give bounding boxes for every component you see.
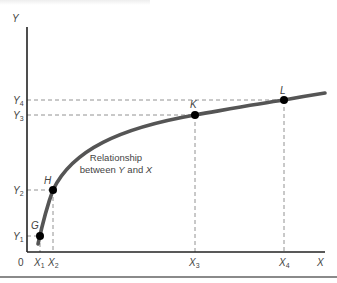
annotation-line-1: Relationship (90, 152, 142, 163)
bottom-divider (0, 276, 337, 278)
y-tick-1: Y1 (13, 231, 24, 243)
point-l (280, 96, 288, 104)
x-tick-1: X1 (33, 257, 45, 269)
annotation-line-2: between Y and X (80, 164, 153, 175)
x-tick-4: X4 (278, 257, 290, 269)
point-label-l: L (280, 85, 286, 96)
y-tick-3: Y3 (13, 110, 24, 122)
x-axis-title: X (316, 257, 324, 268)
x-tick-2: X2 (47, 257, 59, 269)
point-label-g: G (31, 220, 39, 231)
relationship-annotation: Relationship between Y and X (80, 152, 153, 175)
point-label-k: K (190, 99, 198, 110)
origin-label: 0 (18, 257, 24, 268)
point-h (49, 186, 57, 194)
point-k (191, 111, 199, 119)
x-tick-3: X3 (188, 257, 200, 269)
y-tick-4: Y4 (13, 95, 24, 107)
point-g (36, 232, 44, 240)
point-label-h: H (44, 175, 52, 186)
chart-canvas: G H K L Y X Y1 Y2 Y3 Y4 X1 X2 X3 X4 0 Re… (0, 0, 337, 283)
y-axis-title: Y (12, 13, 20, 24)
y-tick-2: Y2 (13, 185, 24, 197)
